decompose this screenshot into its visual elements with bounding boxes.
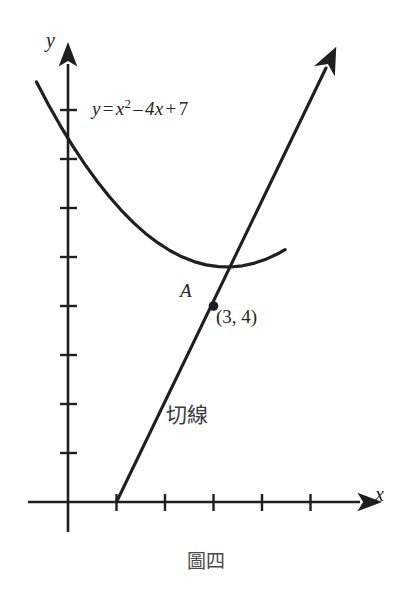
equation-constant: 7	[179, 98, 189, 119]
equation-minus: –	[131, 98, 145, 119]
equation-equals: =	[101, 98, 116, 119]
x-axis-label: x	[375, 484, 384, 504]
figure-caption: 圖四	[0, 552, 411, 571]
figure-container: y x y=x2–4x+7 A (3, 4) 切線 圖四	[0, 0, 411, 598]
parabola-curve	[37, 82, 388, 270]
tangent-line-label: 切線	[166, 405, 208, 426]
point-label: A	[180, 281, 192, 300]
equation-plus: +	[164, 98, 179, 119]
equation-lhs: y	[92, 98, 101, 119]
y-axis-label: y	[46, 30, 55, 50]
equation-label: y=x2–4x+7	[92, 98, 188, 118]
equation-linear-term: 4x	[145, 98, 164, 119]
coordinate-plot	[0, 0, 411, 598]
point-coordinates: (3, 4)	[216, 307, 257, 326]
tangent-line	[117, 61, 331, 502]
